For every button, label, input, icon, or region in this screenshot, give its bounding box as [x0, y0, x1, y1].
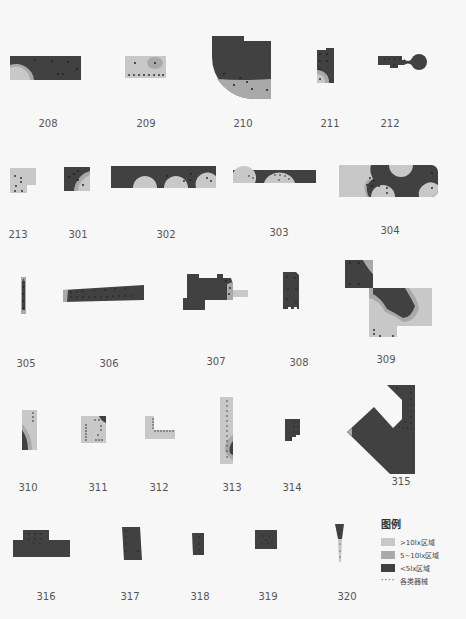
legend-label: 5~10lx区域 — [400, 550, 439, 560]
room-318-plan — [192, 533, 205, 556]
room-label: 306 — [89, 358, 129, 369]
room-208-plan — [10, 56, 82, 82]
room-315-plan — [347, 385, 417, 475]
room-308-plan — [283, 272, 301, 310]
room-320-plan — [334, 524, 346, 564]
room-label: 310 — [8, 482, 48, 493]
swatch-mid — [381, 551, 395, 559]
room-label: 212 — [370, 118, 410, 129]
room-301-plan — [64, 167, 92, 193]
legend-item-bright: >10lx区域 — [381, 535, 439, 548]
swatch-light — [381, 538, 395, 546]
room-label: 318 — [180, 591, 220, 602]
room-label: 213 — [0, 229, 38, 240]
room-305-plan — [21, 277, 27, 315]
legend-label: >10lx区域 — [400, 537, 435, 547]
room-label: 314 — [272, 482, 312, 493]
room-212-plan — [378, 54, 434, 76]
room-label: 210 — [223, 118, 263, 129]
legend-item-medium: 5~10lx区域 — [381, 548, 439, 561]
room-label: 312 — [139, 482, 179, 493]
legend-label: <5lx区域 — [400, 563, 430, 573]
room-label: 319 — [248, 591, 288, 602]
room-302-plan — [111, 166, 217, 190]
room-209-plan — [125, 56, 167, 80]
legend-label: 各类器械 — [400, 576, 428, 586]
room-label: 305 — [6, 358, 46, 369]
legend-title: 图例 — [381, 516, 439, 531]
room-317-plan — [122, 527, 143, 561]
room-label: 209 — [126, 118, 166, 129]
room-label: 320 — [327, 591, 367, 602]
room-label: 315 — [381, 476, 421, 487]
room-label: 211 — [310, 118, 350, 129]
room-319-plan — [255, 530, 278, 550]
room-label: 304 — [370, 225, 410, 236]
room-316-plan — [13, 530, 71, 558]
room-213-plan — [10, 168, 38, 194]
room-label: 302 — [146, 229, 186, 240]
room-label: 311 — [78, 482, 118, 493]
swatch-dark — [381, 564, 395, 572]
room-label: 307 — [196, 356, 236, 367]
room-312-plan — [145, 416, 177, 440]
room-311-plan — [81, 416, 107, 444]
room-304-plan — [339, 165, 439, 198]
room-label: 316 — [26, 591, 66, 602]
room-314-plan — [285, 419, 301, 442]
room-label: 303 — [259, 227, 299, 238]
room-label: 313 — [212, 482, 252, 493]
room-label: 308 — [279, 357, 319, 368]
legend: 图例 >10lx区域 5~10lx区域 <5lx区域 ···· 各类器械 — [381, 516, 439, 587]
dots-icon: ···· — [381, 578, 395, 584]
room-309-plan — [345, 260, 435, 338]
room-307-plan — [183, 274, 249, 312]
room-306-plan — [63, 285, 145, 303]
room-313-plan — [220, 397, 234, 465]
legend-item-dark: <5lx区域 — [381, 561, 439, 574]
room-label: 317 — [110, 591, 150, 602]
room-310-plan — [22, 410, 38, 452]
room-211-plan — [317, 48, 335, 84]
legend-item-equipment: ···· 各类器械 — [381, 574, 439, 587]
room-label: 301 — [58, 229, 98, 240]
room-210-plan — [212, 36, 272, 100]
room-label: 309 — [366, 354, 406, 365]
room-303-plan — [233, 170, 317, 185]
room-label: 208 — [28, 118, 68, 129]
